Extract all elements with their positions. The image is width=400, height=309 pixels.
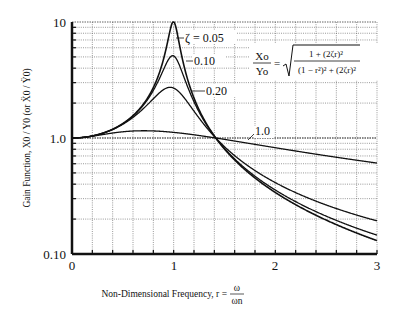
curve-label-zeta-0.20: 0.20: [206, 84, 227, 98]
x-axis-title-frac-den: ωn: [231, 296, 242, 306]
x-axis-title: Non-Dimensional Frequency, r =: [101, 289, 227, 299]
y-tick-label-0.1: 0.10: [43, 247, 66, 262]
formula-lhs-den: Yo: [256, 65, 269, 77]
x-axis-title-frac-num: ω: [234, 283, 240, 293]
curve-0.20: [72, 87, 377, 221]
leader-1.0: [248, 134, 254, 140]
x-tick-label-3: 3: [374, 258, 381, 273]
curve-label-zeta-0.05: ζ = 0.05: [185, 31, 224, 45]
x-tick-label-1: 1: [171, 258, 178, 273]
x-tick-label-0: 0: [69, 258, 76, 273]
curve-label-zeta-0.10: 0.10: [194, 54, 215, 68]
formula-rhs-den: (1 − r²)² + (2ζr)²: [298, 65, 356, 75]
curve-label-zeta-1.0: 1.0: [255, 124, 270, 138]
formula-rhs-num: 1 + (2ζr)²: [309, 49, 343, 59]
gain-function-chart: 10 1.0 0.10 0 1 2 3 Gain Function, X0 / …: [0, 0, 400, 309]
x-tick-label-2: 2: [272, 258, 279, 273]
y-tick-label-1: 1.0: [50, 131, 66, 146]
formula: Xo Yo = 1 + (2ζr)² (1 − r²)² + (2ζr)²: [250, 44, 378, 80]
formula-lhs-num: Xo: [255, 50, 269, 62]
y-axis-title: Gain Function, X0 / Y0 (or Ẍ0 / Ÿ0): [21, 68, 33, 207]
y-tick-label-10: 10: [53, 15, 66, 30]
formula-equals: =: [274, 57, 280, 69]
